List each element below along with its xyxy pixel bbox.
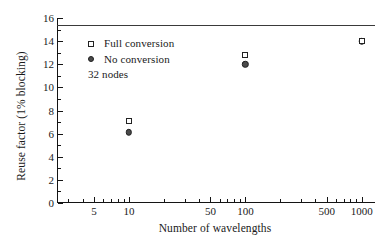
x-tick-label: 50 bbox=[205, 206, 216, 217]
data-point bbox=[126, 129, 132, 135]
x-tick-major: 10 bbox=[129, 197, 130, 202]
x-tick-minor bbox=[118, 199, 119, 202]
x-tick-minor bbox=[220, 199, 221, 202]
x-axis-line bbox=[57, 202, 375, 203]
filled-circle-icon bbox=[88, 56, 104, 62]
x-tick-major: 5 bbox=[94, 197, 95, 202]
y-tick-major: 6 bbox=[58, 134, 63, 135]
legend-label-full-conversion: Full conversion bbox=[104, 36, 174, 52]
x-tick-minor bbox=[124, 199, 125, 202]
x-tick-label: 1000 bbox=[351, 206, 373, 217]
y-tick-minor bbox=[58, 76, 61, 77]
x-tick-minor bbox=[315, 199, 316, 202]
y-tick-major: 2 bbox=[58, 180, 63, 181]
y-tick-minor bbox=[58, 122, 61, 123]
legend-item-full-conversion: Full conversion bbox=[88, 36, 174, 52]
x-tick-minor bbox=[83, 199, 84, 202]
y-axis-title: Reuse factor (1% blocking) bbox=[10, 11, 32, 221]
y-tick-minor bbox=[58, 191, 61, 192]
x-axis-title: Number of wavelengths bbox=[55, 222, 375, 234]
chart-figure: Reuse factor (1% blocking) Number of wav… bbox=[0, 0, 379, 251]
legend-note-nodes: 32 nodes bbox=[88, 67, 174, 83]
x-tick-minor bbox=[103, 199, 104, 202]
legend-label-no-conversion: No conversion bbox=[104, 52, 170, 68]
chart-legend: Full conversion No conversion 32 nodes bbox=[88, 36, 174, 83]
reference-line-upper-bound bbox=[57, 25, 375, 26]
x-tick-label: 10 bbox=[124, 206, 135, 217]
legend-item-no-conversion: No conversion bbox=[88, 52, 174, 68]
y-tick-major: 4 bbox=[58, 157, 63, 158]
y-tick-label: 2 bbox=[49, 174, 55, 185]
x-tick-minor bbox=[356, 199, 357, 202]
x-tick-minor bbox=[185, 199, 186, 202]
x-tick-major: 1000 bbox=[362, 197, 363, 202]
x-tick-minor bbox=[280, 199, 281, 202]
y-tick-major: 12 bbox=[58, 64, 63, 65]
x-tick-minor bbox=[227, 199, 228, 202]
y-tick-label: 4 bbox=[49, 151, 55, 162]
x-tick-minor bbox=[164, 199, 165, 202]
y-tick-label: 14 bbox=[43, 36, 54, 47]
x-tick-label: 100 bbox=[237, 206, 254, 217]
y-tick-minor bbox=[58, 145, 61, 146]
y-tick-minor bbox=[58, 53, 61, 54]
x-tick-minor bbox=[240, 199, 241, 202]
y-tick-major: 0 bbox=[58, 203, 63, 204]
y-tick-major: 8 bbox=[58, 111, 63, 112]
x-tick-label: 5 bbox=[91, 206, 97, 217]
x-tick-minor bbox=[350, 199, 351, 202]
x-tick-minor bbox=[301, 199, 302, 202]
data-point bbox=[359, 38, 365, 44]
x-tick-major: 100 bbox=[245, 197, 246, 202]
y-tick-minor bbox=[58, 99, 61, 100]
open-square-icon bbox=[88, 41, 104, 47]
y-tick-label: 12 bbox=[43, 59, 54, 70]
x-tick-minor bbox=[199, 199, 200, 202]
x-tick-minor bbox=[68, 199, 69, 202]
data-point bbox=[242, 61, 248, 67]
y-tick-major: 10 bbox=[58, 87, 63, 88]
data-point bbox=[242, 52, 248, 58]
y-tick-label: 10 bbox=[43, 82, 54, 93]
y-tick-label: 6 bbox=[49, 128, 55, 139]
y-tick-label: 8 bbox=[49, 105, 55, 116]
x-tick-major: 50 bbox=[210, 197, 211, 202]
x-tick-minor bbox=[344, 199, 345, 202]
y-tick-minor bbox=[58, 30, 61, 31]
y-tick-label: 0 bbox=[49, 198, 55, 209]
x-tick-minor bbox=[111, 199, 112, 202]
y-tick-major: 14 bbox=[58, 41, 63, 42]
y-tick-minor bbox=[58, 168, 61, 169]
data-point bbox=[126, 118, 132, 124]
x-tick-minor bbox=[336, 199, 337, 202]
x-tick-major: 500 bbox=[327, 197, 328, 202]
y-tick-major: 16 bbox=[58, 18, 63, 19]
x-tick-minor bbox=[234, 199, 235, 202]
y-tick-label: 16 bbox=[43, 13, 54, 24]
x-tick-label: 500 bbox=[318, 206, 335, 217]
